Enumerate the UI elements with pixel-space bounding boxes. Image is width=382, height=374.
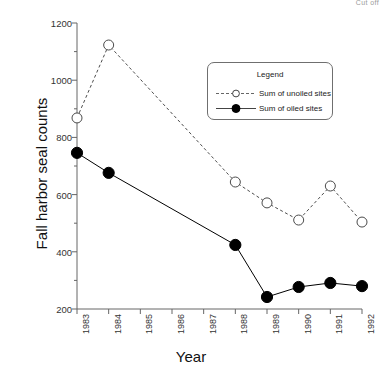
x-axis-tick-label: 1987 [208,314,218,334]
data-point-marker [293,281,304,292]
data-point-marker [230,239,241,250]
y-axis-tick-label: 200 [56,304,72,315]
data-point-marker [103,167,114,178]
data-point-marker [72,113,82,123]
x-axis-tick-label: 1991 [334,314,344,334]
y-axis-tick-label: 1000 [51,75,72,86]
data-point-marker [325,181,335,191]
x-axis-tick-label: 1990 [303,314,313,334]
legend-item-oiled: Sum of oiled sites [216,102,328,115]
y-axis-tick-label: 600 [56,189,72,200]
x-axis-tick-label: 1985 [144,314,154,334]
legend-label-oiled: Sum of oiled sites [259,104,322,113]
x-axis-tick-label: 1984 [113,314,123,334]
x-axis-tick-label: 1988 [239,314,249,334]
series-line [77,153,362,297]
data-point-marker [230,177,240,187]
data-point-marker [71,147,82,158]
corner-note: Cut off [356,0,379,6]
legend: Legend Sum of unoiled sites Sum of oiled… [207,62,333,120]
data-point-marker [325,277,336,288]
y-axis-title: Fall harbor seal counts [33,54,50,294]
x-axis-tick-label: 1983 [81,314,91,334]
legend-label-unoiled: Sum of unoiled sites [259,89,331,98]
x-axis-tick-label: 1992 [366,314,376,334]
y-axis-tick-label: 1200 [51,18,72,29]
legend-title: Legend [208,70,332,79]
y-axis-tick-label: 800 [56,132,72,143]
data-point-marker [262,198,272,208]
data-point-marker [356,281,367,292]
legend-swatch-oiled-icon [216,102,256,115]
x-axis-title: Year [0,348,382,365]
data-point-marker [294,215,304,225]
y-axis-tick-label: 400 [56,246,72,257]
data-point-marker [261,291,272,302]
plot-area [0,0,382,374]
x-axis-tick-label: 1989 [271,314,281,334]
data-point-marker [357,217,367,227]
chart-figure: Cut off Fall harbor seal counts Year 200… [0,0,382,374]
legend-item-unoiled: Sum of unoiled sites [216,87,328,100]
data-point-marker [104,40,114,50]
x-axis-tick-label: 1986 [176,314,186,334]
legend-swatch-unoiled-icon [216,87,256,100]
